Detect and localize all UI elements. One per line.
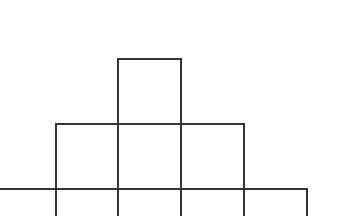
square [56,189,118,216]
row-bottom [0,189,307,216]
square [244,189,307,216]
square [0,189,56,216]
square [118,59,181,124]
square [118,124,181,189]
square [181,124,244,189]
row-top [118,59,181,124]
square-pyramid-diagram [0,0,340,216]
row-middle [56,124,244,189]
square [56,124,118,189]
square [118,189,181,216]
square [181,189,244,216]
